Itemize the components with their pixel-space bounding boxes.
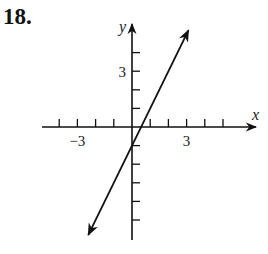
y-axis-label: y <box>117 18 127 36</box>
y-tick-label: 3 <box>119 64 127 80</box>
x-axis-label: x <box>251 106 259 123</box>
x-tick-label: −3 <box>69 133 85 149</box>
coordinate-plane: −333xy <box>0 0 268 254</box>
axis-labels: −333xy <box>69 18 259 149</box>
x-tick-label: 3 <box>183 133 191 149</box>
plotted-line <box>88 30 188 235</box>
axes <box>42 24 256 240</box>
line-y-equals-2x-minus-1 <box>88 30 188 235</box>
